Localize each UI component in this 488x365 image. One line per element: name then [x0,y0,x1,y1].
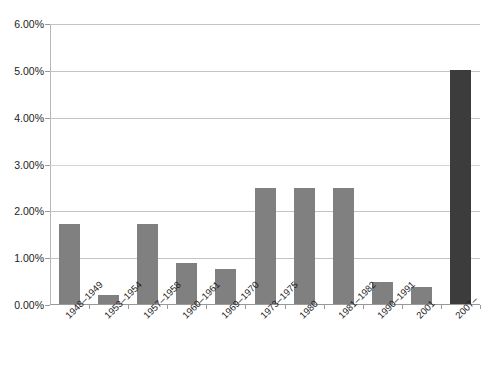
y-tick-label: 5.00% [0,65,44,77]
x-tick-mark [89,305,90,309]
y-tick-mark [45,24,50,25]
y-tick-label: 2.00% [0,205,44,217]
x-tick-mark [206,305,207,309]
y-tick-label: 0.00% [0,299,44,311]
y-tick-mark [45,71,50,72]
bar-chart: 0.00%1.00%2.00%3.00%4.00%5.00%6.00% 1948… [0,0,488,365]
x-tick-mark [167,305,168,309]
y-tick-mark [45,211,50,212]
x-tick-mark [363,305,364,309]
gridline [50,71,480,72]
x-tick-mark [402,305,403,309]
plot-area [50,24,480,305]
x-tick-mark [245,305,246,309]
x-tick-mark [441,305,442,309]
gridline [50,118,480,119]
gridline [50,24,480,25]
x-tick-mark [324,305,325,309]
bar [450,70,471,304]
x-tick-mark [128,305,129,309]
x-tick-mark [285,305,286,309]
bar [137,224,158,304]
y-tick-label: 6.00% [0,18,44,30]
y-tick-label: 3.00% [0,159,44,171]
y-tick-label: 1.00% [0,252,44,264]
x-tick-mark [480,305,481,309]
bar [59,224,80,304]
y-tick-mark [45,118,50,119]
gridline [50,165,480,166]
y-tick-mark [45,165,50,166]
chart-title [0,0,488,1]
y-tick-mark [45,305,50,306]
y-tick-mark [45,258,50,259]
y-tick-label: 4.00% [0,112,44,124]
bar [333,188,354,304]
